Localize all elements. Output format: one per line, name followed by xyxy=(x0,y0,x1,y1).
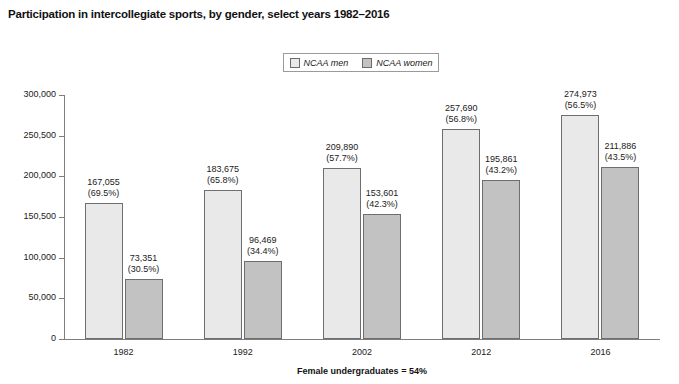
bar-group: 167,055(69.5%)73,351(30.5%) xyxy=(64,95,183,339)
bar-label-men-percent: (65.8%) xyxy=(193,175,253,186)
legend-swatch-women-icon xyxy=(362,58,372,68)
bar-label-women-percent: (34.4%) xyxy=(233,246,293,257)
bar-label-men-percent: (56.5%) xyxy=(550,100,610,111)
chart-legend: NCAA men NCAA women xyxy=(283,53,439,72)
bar-label-men: 209,890(57.7%) xyxy=(312,142,372,164)
bar-group: 183,675(65.8%)96,469(34.4%) xyxy=(183,95,302,339)
legend-swatch-men-icon xyxy=(290,58,300,68)
bar-men[interactable] xyxy=(204,190,242,339)
legend-label-women: NCAA women xyxy=(376,58,432,68)
y-tick-label: 0 xyxy=(2,333,56,343)
x-axis-label: 1982 xyxy=(64,347,183,357)
bar-group: 274,973(56.5%)211,886(43.5%) xyxy=(541,95,660,339)
legend-label-men: NCAA men xyxy=(304,58,349,68)
bar-women[interactable] xyxy=(125,279,163,339)
bar-label-women-percent: (42.3%) xyxy=(352,199,412,210)
bar-label-women-percent: (30.5%) xyxy=(114,264,174,275)
bar-label-men-value: 257,690 xyxy=(431,103,491,114)
legend-item-men: NCAA men xyxy=(290,58,349,68)
bar-label-women-percent: (43.5%) xyxy=(590,152,650,163)
bar-group: 209,890(57.7%)153,601(42.3%) xyxy=(302,95,421,339)
page-title: Participation in intercollegiate sports,… xyxy=(8,8,390,20)
y-tick-label: 50,000 xyxy=(2,292,56,302)
bar-label-women: 153,601(42.3%) xyxy=(352,188,412,210)
y-tick-label: 250,500 xyxy=(2,130,56,140)
plot-area: 050,000100,000150,500200,000250,500300,0… xyxy=(64,95,660,339)
bar-label-women-value: 96,469 xyxy=(233,235,293,246)
bar-label-men-percent: (69.5%) xyxy=(74,188,134,199)
x-axis-label: 1992 xyxy=(183,347,302,357)
y-tick-label: 300,000 xyxy=(2,89,56,99)
bar-label-men-value: 209,890 xyxy=(312,142,372,153)
bar-label-women-value: 73,351 xyxy=(114,253,174,264)
bar-label-men-percent: (56.8%) xyxy=(431,114,491,125)
y-tick-label: 150,500 xyxy=(2,211,56,221)
bar-women[interactable] xyxy=(363,214,401,339)
bar-women[interactable] xyxy=(601,167,639,339)
bar-label-men-value: 167,055 xyxy=(74,177,134,188)
y-tick-label: 200,000 xyxy=(2,170,56,180)
bar-label-women-value: 195,861 xyxy=(471,154,531,165)
bar-label-men: 257,690(56.8%) xyxy=(431,103,491,125)
bar-label-women: 195,861(43.2%) xyxy=(471,154,531,176)
bar-label-men-percent: (57.7%) xyxy=(312,153,372,164)
x-axis-line xyxy=(64,339,660,340)
bar-label-women-value: 211,886 xyxy=(590,141,650,152)
bar-women[interactable] xyxy=(244,261,282,339)
bar-label-women: 211,886(43.5%) xyxy=(590,141,650,163)
x-axis-label: 2012 xyxy=(422,347,541,357)
bar-label-men: 274,973(56.5%) xyxy=(550,89,610,111)
bar-label-women: 96,469(34.4%) xyxy=(233,235,293,257)
bar-group: 257,690(56.8%)195,861(43.2%) xyxy=(422,95,541,339)
bar-label-men-value: 183,675 xyxy=(193,164,253,175)
bar-label-women-percent: (43.2%) xyxy=(471,165,531,176)
bar-label-men-value: 274,973 xyxy=(550,89,610,100)
legend-item-women: NCAA women xyxy=(362,58,432,68)
bar-label-men: 167,055(69.5%) xyxy=(74,177,134,199)
bar-label-women-value: 153,601 xyxy=(352,188,412,199)
chart-footnote: Female undergraduates = 54% xyxy=(64,366,660,376)
bar-label-women: 73,351(30.5%) xyxy=(114,253,174,275)
y-tick-label: 100,000 xyxy=(2,252,56,262)
chart-page: Participation in intercollegiate sports,… xyxy=(0,0,679,384)
bar-women[interactable] xyxy=(482,180,520,339)
bar-label-men: 183,675(65.8%) xyxy=(193,164,253,186)
x-axis-label: 2002 xyxy=(302,347,421,357)
y-tick-mark xyxy=(59,339,64,340)
x-axis-label: 2016 xyxy=(541,347,660,357)
